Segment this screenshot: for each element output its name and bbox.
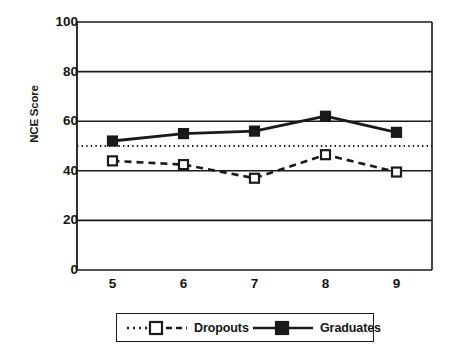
y-tick-label: 100 (44, 15, 78, 29)
legend-item-graduates: Graduates (253, 314, 381, 341)
y-tick-label: 60 (44, 114, 78, 128)
legend-label-graduates: Graduates (320, 321, 381, 335)
x-tick-label: 8 (311, 276, 341, 291)
data-series-layer (108, 112, 401, 183)
y-tick-label: 0 (44, 263, 78, 277)
legend-label-dropouts: Dropouts (194, 321, 249, 335)
chart-legend: Dropouts Graduates (116, 313, 374, 342)
axis-lines (77, 22, 432, 270)
x-tick-label: 9 (382, 276, 412, 291)
x-tick-label: 6 (169, 276, 199, 291)
y-tick-label: 40 (44, 164, 78, 178)
y-tick-label: 80 (44, 65, 78, 79)
dashed-open-square-icon (127, 320, 187, 336)
nce-score-line-chart: NCE Score 020406080100 56789 Dropouts Gr… (0, 0, 449, 356)
gridlines (77, 22, 432, 270)
legend-item-dropouts: Dropouts (127, 314, 249, 341)
solid-filled-square-icon (253, 320, 313, 336)
y-axis-tick-labels: 020406080100 (38, 0, 78, 300)
y-tick-label: 20 (44, 213, 78, 227)
x-tick-label: 7 (240, 276, 270, 291)
x-tick-label: 5 (98, 276, 128, 291)
